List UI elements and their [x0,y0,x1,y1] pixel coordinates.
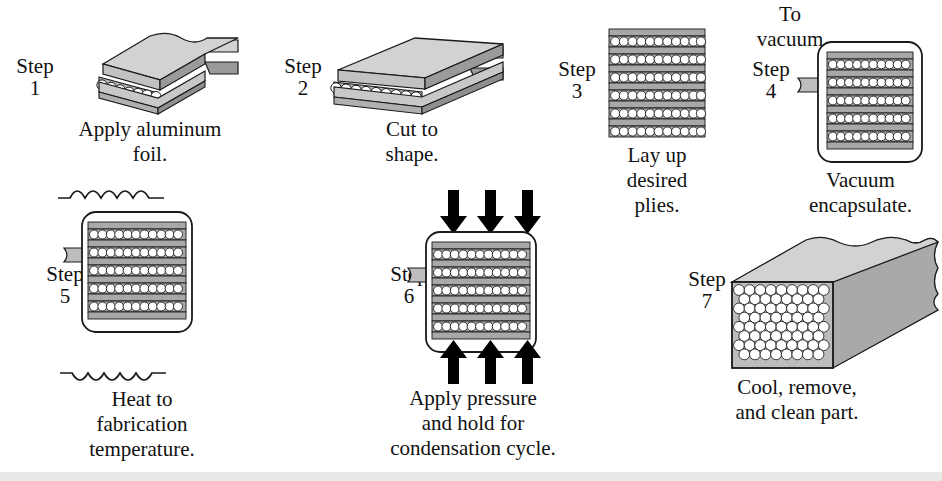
step-4-word: Step [752,57,789,81]
process-diagram: Step 1 [0,0,942,481]
step-3-illustration [608,28,706,140]
step-7-word: Step [688,267,725,291]
step-4-caption-line-1: Vacuum [778,168,942,193]
step-1-caption: Apply aluminum foil. [40,117,260,167]
scan-edge-artifact [0,472,942,481]
step-1-caption-line-2: foil. [40,142,260,167]
step-4-annotation-line-1: To [735,2,845,27]
step-6-caption-line-3: condensation cycle. [368,436,578,461]
step-7-caption-line-1: Cool, remove, [682,375,912,400]
step-1-word: Step [16,54,53,78]
step-3-caption-line-2: desired [578,168,736,193]
step-1-illustration [55,22,245,117]
step-7-caption-line-2: and clean part. [682,400,912,425]
step-5-caption: Heat to fabrication temperature. [42,387,242,461]
step-4-caption: Vacuum encapsulate. [778,168,942,218]
step-2-caption-line-1: Cut to [322,117,502,142]
step-2-word: Step [284,54,321,78]
step-6-pressure-arrows-bottom [440,340,560,386]
step-5-heat-wave-top [54,182,184,204]
step-3-caption-line-1: Lay up [578,143,736,168]
step-1-caption-line-1: Apply aluminum [40,117,260,142]
step-5-illustration [62,208,194,338]
step-7-illustration [726,232,942,372]
step-7-caption: Cool, remove, and clean part. [682,375,912,425]
step-6-caption-line-2: and hold for [368,411,578,436]
step-4-caption-line-2: encapsulate. [778,193,942,218]
step-6-illustration [406,228,538,358]
step-5-caption-line-3: temperature. [42,437,242,462]
step-3-number: 3 [546,80,608,102]
step-4-label: Step 4 [740,58,802,102]
step-4-illustration [796,38,928,168]
step-5-caption-line-1: Heat to [42,387,242,412]
step-3-word: Step [558,57,595,81]
step-6-caption-line-1: Apply pressure [368,386,578,411]
step-2-caption-line-2: shape. [322,142,502,167]
step-2-illustration [318,26,513,121]
step-5-heat-wave-bottom [56,365,186,387]
step-2-caption: Cut to shape. [322,117,502,167]
step-3-caption-line-3: plies. [578,193,736,218]
step-3-caption: Lay up desired plies. [578,143,736,217]
step-4-number: 4 [740,80,802,102]
step-5-caption-line-2: fabrication [42,412,242,437]
step-3-label: Step 3 [546,58,608,102]
step-6-caption: Apply pressure and hold for condensation… [368,386,578,460]
